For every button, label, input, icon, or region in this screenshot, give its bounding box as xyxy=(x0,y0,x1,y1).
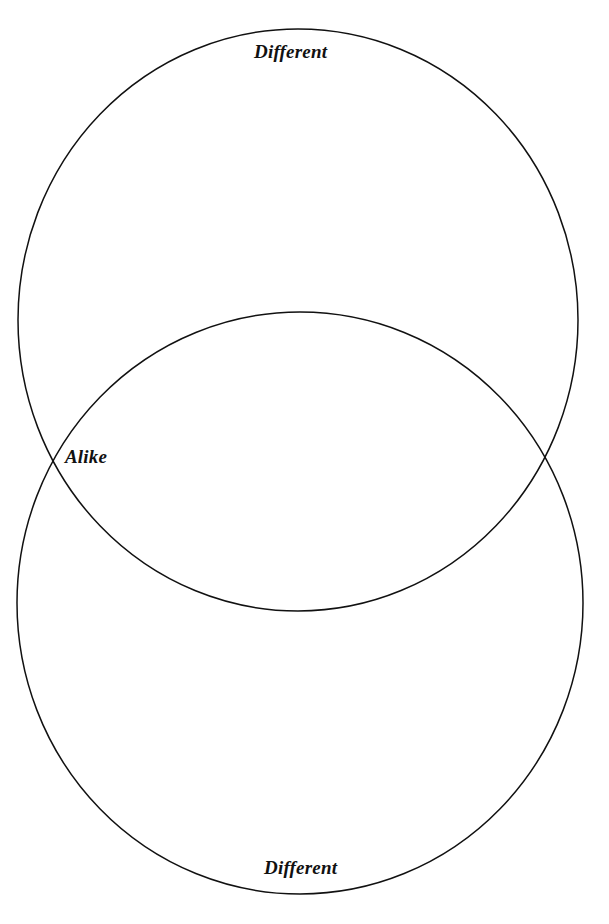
venn-label-alike: Alike xyxy=(65,447,107,466)
venn-label-bottom-different: Different xyxy=(264,858,337,877)
venn-lower-circle xyxy=(17,312,583,894)
venn-label-top-different: Different xyxy=(254,42,327,61)
venn-upper-circle xyxy=(18,29,578,611)
venn-diagram-page: Different Alike Different xyxy=(0,0,609,924)
